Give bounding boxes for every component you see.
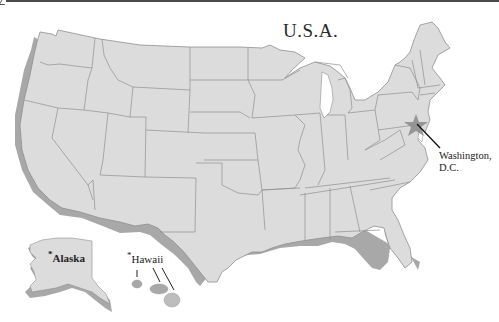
alaska-label: *Alaska <box>48 252 85 264</box>
alaska-inset <box>25 238 112 312</box>
hawaii-inset <box>132 280 180 307</box>
hawaii-name: Hawaii <box>132 253 164 265</box>
map-title: U.S.A. <box>283 20 338 42</box>
usa-map <box>0 0 499 322</box>
capital-label-line1: Washington, <box>439 150 492 162</box>
alaska-name: Alaska <box>53 252 85 264</box>
capital-label-line2: D.C. <box>439 162 492 174</box>
capital-label: Washington, D.C. <box>439 150 492 174</box>
hawaii-label: *Hawaii <box>127 253 163 265</box>
